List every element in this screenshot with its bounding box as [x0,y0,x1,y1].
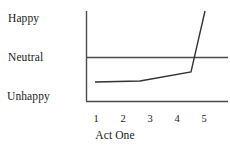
y-axis-label-neutral: Neutral [8,52,43,64]
x-tick-label-2: 2 [116,114,130,125]
x-tick-label-5: 5 [197,114,211,125]
y-axis-label-unhappy: Unhappy [7,91,50,103]
mood-over-acts-chart: Happy Neutral Unhappy 1 2 3 4 5 Act One [0,0,230,150]
y-axis-label-happy: Happy [8,13,39,25]
mood-line-series [95,11,205,82]
x-tick-label-4: 4 [170,114,184,125]
x-tick-label-1: 1 [89,114,103,125]
x-axis-title: Act One [0,130,230,142]
x-tick-label-3: 3 [143,114,157,125]
